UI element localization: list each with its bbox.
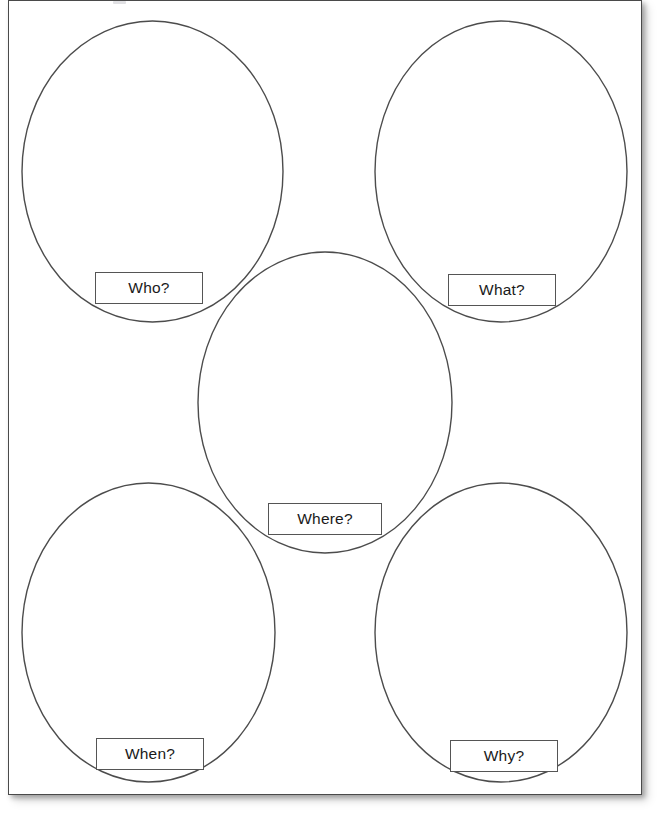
label-box-who[interactable]: Who? xyxy=(95,272,203,304)
label-text-what: What? xyxy=(479,282,525,298)
label-text-where: Where? xyxy=(297,511,352,527)
label-text-who: Who? xyxy=(128,280,169,296)
worksheet-page: Who? What? Where? When? Why? xyxy=(0,0,657,816)
label-text-why: Why? xyxy=(484,748,524,764)
label-box-why[interactable]: Why? xyxy=(450,740,558,772)
page-sheet-border xyxy=(8,0,642,795)
label-text-when: When? xyxy=(125,746,175,762)
label-box-where[interactable]: Where? xyxy=(268,503,382,535)
label-box-when[interactable]: When? xyxy=(96,738,204,770)
label-box-what[interactable]: What? xyxy=(448,274,556,306)
scan-artifact-mark xyxy=(113,1,126,4)
